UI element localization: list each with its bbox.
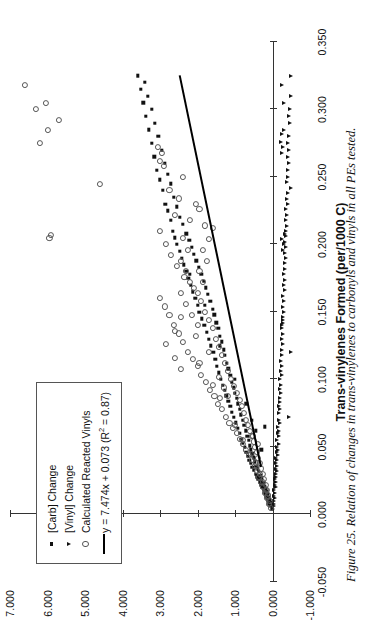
data-point <box>224 393 230 399</box>
data-point <box>222 348 225 351</box>
data-point <box>280 83 284 87</box>
data-point <box>44 127 50 133</box>
data-point <box>176 196 182 202</box>
data-point <box>194 290 200 296</box>
data-point <box>163 241 169 247</box>
data-point <box>278 387 282 391</box>
data-point <box>277 418 281 422</box>
data-point <box>200 247 206 253</box>
data-point <box>289 186 293 190</box>
data-point <box>174 263 180 269</box>
data-point <box>37 140 43 146</box>
data-point <box>288 108 292 112</box>
rotation-frame: -0.0500.0000.0500.1000.1500.2000.2500.30… <box>0 0 384 636</box>
data-point <box>286 168 290 172</box>
y-axis-tick <box>310 511 311 518</box>
x-axis-tick <box>270 244 277 245</box>
data-point <box>285 224 289 228</box>
data-point <box>281 342 285 346</box>
data-point <box>178 290 184 296</box>
data-point <box>166 209 169 212</box>
data-point <box>178 216 181 219</box>
data-point <box>195 259 198 262</box>
data-point <box>189 312 195 318</box>
data-point <box>200 317 203 320</box>
data-point <box>206 293 209 296</box>
data-point <box>141 101 144 104</box>
data-point <box>228 405 231 408</box>
data-point <box>287 162 291 166</box>
data-point <box>139 88 142 91</box>
data-point <box>280 364 284 368</box>
legend-label-calculated: Calculated Reacted Vinyls <box>80 411 92 533</box>
data-point <box>187 217 193 223</box>
data-point <box>287 148 291 152</box>
data-point <box>190 356 196 362</box>
figure-container: -0.0500.0000.0500.1000.1500.2000.2500.30… <box>0 0 384 636</box>
data-point <box>215 321 218 324</box>
data-point <box>286 202 290 206</box>
data-point <box>178 250 181 253</box>
data-point <box>260 448 263 451</box>
data-point <box>279 140 283 144</box>
open-circle-icon <box>82 533 88 555</box>
data-point <box>33 106 39 112</box>
data-point <box>153 121 156 124</box>
data-point <box>280 373 284 377</box>
data-point <box>97 181 103 187</box>
data-point <box>185 232 188 235</box>
data-point <box>204 258 210 264</box>
data-point <box>231 383 237 389</box>
data-point <box>196 304 199 307</box>
data-point <box>281 294 285 298</box>
y-axis-tick-label: 6.000 <box>42 590 54 617</box>
data-point <box>200 279 206 285</box>
filled-triangle-icon <box>67 533 71 555</box>
data-point <box>185 247 191 253</box>
data-point <box>209 325 215 331</box>
y-axis-tick-label: -1.000 <box>304 590 316 620</box>
data-point <box>219 406 225 412</box>
data-point <box>43 100 49 106</box>
data-point <box>207 337 210 340</box>
data-point <box>282 101 286 105</box>
data-point <box>156 135 159 138</box>
data-point <box>48 232 54 238</box>
data-point <box>234 390 240 396</box>
filled-square-icon <box>50 533 53 555</box>
data-point <box>147 128 150 131</box>
data-point <box>275 438 279 442</box>
data-point <box>281 318 285 322</box>
data-point <box>188 239 191 242</box>
data-point <box>136 74 139 77</box>
data-point <box>279 383 283 387</box>
data-point <box>279 369 283 373</box>
x-axis-tick <box>270 581 277 582</box>
data-point <box>204 286 207 289</box>
figure-caption: Figure 25. Relation of changes in trans-… <box>344 22 359 582</box>
data-point <box>155 169 158 172</box>
data-point <box>209 382 215 388</box>
x-axis-tick-label: 0.250 <box>316 164 328 191</box>
data-point <box>288 121 292 125</box>
data-point <box>203 379 209 385</box>
data-point <box>213 336 219 342</box>
y-axis-tick-label: 2.000 <box>192 590 204 617</box>
data-point <box>280 151 284 155</box>
data-point <box>287 114 291 118</box>
y-axis-tick <box>160 511 161 518</box>
data-point <box>276 425 280 429</box>
data-point <box>219 352 225 358</box>
data-point <box>144 115 147 118</box>
data-point <box>280 237 284 241</box>
legend-item-vinyl: [Vinyl] Change <box>61 392 76 555</box>
data-point <box>161 163 167 169</box>
data-point <box>241 410 247 416</box>
x-axis-tick-label: 0.000 <box>316 501 328 528</box>
data-point <box>280 353 284 357</box>
data-point <box>192 252 195 255</box>
data-point <box>157 228 163 234</box>
data-point <box>281 145 285 149</box>
x-axis-tick-label: 0.300 <box>316 96 328 123</box>
data-point <box>150 108 153 111</box>
